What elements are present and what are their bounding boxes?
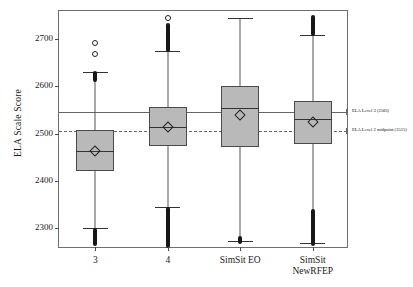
x-axis-tick-mark <box>313 247 314 251</box>
y-axis-tick-label: 2400 <box>35 175 53 185</box>
reference-line-label-ela-level-3: ELA Level 3 (2583) <box>352 108 389 113</box>
outlier-cluster-upper <box>166 23 170 53</box>
box-plot-chart: ELA Scale Score 2300240025002600270034Si… <box>0 0 413 287</box>
y-axis-tick-label: 2600 <box>35 80 53 90</box>
y-axis-tick-label: 2300 <box>35 222 53 232</box>
outlier-cluster-upper <box>93 71 97 81</box>
x-axis-tick-mark <box>168 247 169 251</box>
x-axis-tick-label-line2: NewRFEP <box>263 266 363 277</box>
x-axis-tick-label: SimSitNewRFEP <box>263 255 363 277</box>
outlier-cluster-upper <box>311 15 315 36</box>
outlier-cluster-lower <box>238 236 242 244</box>
y-axis-title: ELA Scale Score <box>13 53 23 193</box>
outlier-point <box>92 51 98 57</box>
y-axis-tick-label: 2700 <box>35 33 53 43</box>
outlier-cluster-lower <box>311 209 315 246</box>
y-axis-tick-mark <box>55 86 59 87</box>
x-axis-tick-mark <box>240 247 241 251</box>
y-axis-tick-mark <box>55 39 59 40</box>
outlier-cluster-lower <box>166 207 170 248</box>
y-axis-tick-mark <box>55 134 59 135</box>
reference-line-label-ela-level-2-midpoint: ELA Level 2 midpoint (2515) <box>352 127 407 132</box>
plot-area: 2300240025002600270034SimSit EOSimSitNew… <box>58 10 348 248</box>
x-axis-tick-label-line1: SimSit <box>263 255 363 266</box>
y-axis-tick-mark <box>55 181 59 182</box>
y-axis-tick-mark <box>55 228 59 229</box>
whisker-cap-upper <box>228 18 253 19</box>
outlier-cluster-lower <box>93 228 97 246</box>
y-axis-tick-label: 2500 <box>35 128 53 138</box>
outlier-point <box>92 40 98 46</box>
outlier-point <box>165 15 171 21</box>
median-line <box>221 108 259 109</box>
x-axis-tick-mark <box>95 247 96 251</box>
